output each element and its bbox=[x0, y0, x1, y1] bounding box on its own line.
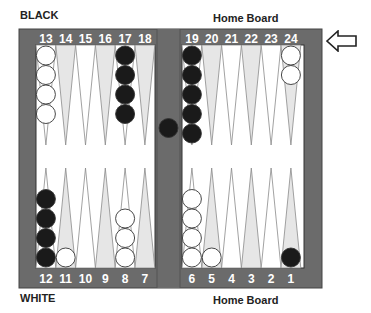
black-checker[interactable] bbox=[116, 85, 135, 104]
point-label-12: 12 bbox=[39, 272, 53, 286]
white-checker[interactable] bbox=[116, 209, 135, 228]
point-label-20: 20 bbox=[205, 32, 219, 46]
white-checker[interactable] bbox=[36, 66, 55, 85]
point-label-3: 3 bbox=[248, 272, 255, 286]
point-label-19: 19 bbox=[185, 32, 199, 46]
white-checker[interactable] bbox=[36, 85, 55, 104]
point-label-2: 2 bbox=[268, 272, 275, 286]
bar-black-checker[interactable] bbox=[159, 119, 178, 138]
white-checker[interactable] bbox=[36, 46, 55, 65]
black-checker[interactable] bbox=[182, 124, 201, 143]
point-label-15: 15 bbox=[79, 32, 93, 46]
black-checker[interactable] bbox=[116, 105, 135, 124]
white-checker[interactable] bbox=[36, 105, 55, 124]
bar[interactable] bbox=[157, 29, 180, 288]
white-checker[interactable] bbox=[182, 229, 201, 248]
point-label-24: 24 bbox=[284, 32, 298, 46]
black-checker[interactable] bbox=[182, 105, 201, 124]
black-checker[interactable] bbox=[36, 248, 55, 267]
point-label-6: 6 bbox=[189, 272, 196, 286]
left-arrow-icon[interactable] bbox=[326, 30, 358, 52]
point-label-1: 1 bbox=[288, 272, 295, 286]
black-checker[interactable] bbox=[182, 66, 201, 85]
black-checker[interactable] bbox=[281, 248, 300, 267]
black-checker[interactable] bbox=[182, 85, 201, 104]
point-label-16: 16 bbox=[99, 32, 113, 46]
point-label-21: 21 bbox=[225, 32, 239, 46]
point-label-13: 13 bbox=[39, 32, 53, 46]
white-checker[interactable] bbox=[182, 248, 201, 267]
white-checker[interactable] bbox=[56, 248, 75, 267]
white-checker[interactable] bbox=[281, 46, 300, 65]
black-checker[interactable] bbox=[36, 209, 55, 228]
black-checker[interactable] bbox=[116, 66, 135, 85]
point-label-11: 11 bbox=[59, 272, 72, 286]
point-label-22: 22 bbox=[245, 32, 259, 46]
white-checker[interactable] bbox=[116, 229, 135, 248]
black-checker[interactable] bbox=[36, 229, 55, 248]
point-label-9: 9 bbox=[102, 272, 109, 286]
black-checker[interactable] bbox=[116, 46, 135, 65]
black-checker[interactable] bbox=[182, 46, 201, 65]
white-checker[interactable] bbox=[182, 209, 201, 228]
point-label-17: 17 bbox=[118, 32, 132, 46]
point-label-8: 8 bbox=[122, 272, 129, 286]
point-label-23: 23 bbox=[264, 32, 278, 46]
backgammon-board: 131415161718192021222324121110987654321 bbox=[0, 0, 371, 313]
black-checker[interactable] bbox=[36, 190, 55, 209]
white-checker[interactable] bbox=[202, 248, 221, 267]
white-checker[interactable] bbox=[182, 190, 201, 209]
point-label-7: 7 bbox=[142, 272, 149, 286]
point-label-4: 4 bbox=[228, 272, 235, 286]
point-label-18: 18 bbox=[138, 32, 152, 46]
point-label-5: 5 bbox=[208, 272, 215, 286]
point-label-10: 10 bbox=[79, 272, 93, 286]
white-checker[interactable] bbox=[116, 248, 135, 267]
white-checker[interactable] bbox=[281, 66, 300, 85]
point-label-14: 14 bbox=[59, 32, 73, 46]
